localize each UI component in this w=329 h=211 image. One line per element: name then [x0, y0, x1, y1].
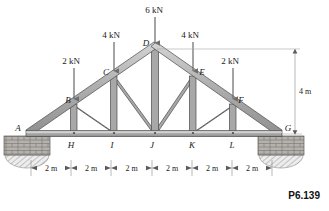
problem-number: P6.139	[288, 190, 320, 201]
load-label-2kN-right: 2 kN	[221, 56, 239, 66]
load-label-2kN-left: 2 kN	[62, 56, 80, 66]
span-dimensions: 2 m 2 m 2 m 2 m 2 m 2 m	[31, 160, 272, 176]
member-E-K	[190, 76, 197, 134]
member-C-I	[111, 76, 118, 134]
joint-label-K: K	[188, 140, 196, 150]
height-dim-arrow-top	[293, 49, 298, 54]
bottom-chord	[26, 131, 282, 137]
span-label-5: 2 m	[206, 164, 219, 173]
load-label-group: 2 kN 4 kN 6 kN 4 kN 2 kN	[62, 5, 239, 66]
joint-label-L: L	[228, 140, 234, 150]
member-D-G-right-rafter	[151, 42, 282, 136]
joint-label-B: B	[65, 95, 71, 105]
span-label-4: 2 m	[166, 164, 179, 173]
load-label-4kN-right: 4 kN	[181, 30, 199, 40]
span-label-6: 2 m	[246, 164, 259, 173]
height-dimension-label: 4 m	[299, 87, 312, 96]
member-B-H	[71, 104, 78, 134]
joint-label-A: A	[14, 123, 21, 133]
joint-label-D: D	[142, 38, 150, 48]
joint-label-G: G	[285, 123, 292, 133]
support-left	[4, 136, 50, 168]
truss-figure: A B C D E F G H I J K L 2 kN 4 kN 6 kN 4…	[0, 0, 329, 211]
member-F-L	[230, 104, 237, 134]
member-A-G-bottom-chord	[26, 131, 282, 137]
support-right	[258, 136, 304, 168]
joint-label-I: I	[110, 140, 115, 150]
joint-label-J: J	[150, 140, 155, 150]
member-D-J	[152, 49, 159, 134]
load-label-4kN-left: 4 kN	[102, 30, 120, 40]
member-A-D-left-rafter	[26, 42, 159, 136]
joint-label-E: E	[198, 67, 205, 77]
joint-label-F: F	[237, 95, 244, 105]
load-label-6kN-apex: 6 kN	[145, 5, 163, 15]
span-label-1: 2 m	[45, 164, 58, 173]
member-C-J	[111, 76, 158, 136]
joint-label-H: H	[67, 140, 75, 150]
figure-page: A B C D E F G H I J K L 2 kN 4 kN 6 kN 4…	[0, 0, 329, 211]
joint-label-C: C	[103, 67, 110, 77]
span-label-2: 2 m	[85, 164, 98, 173]
span-arrow-heads	[31, 166, 272, 170]
span-label-3: 2 m	[125, 164, 138, 173]
